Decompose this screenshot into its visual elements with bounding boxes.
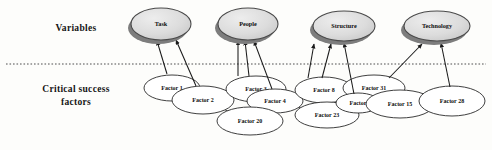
factor-node-factor-20[interactable]: Factor 20 [217,107,283,135]
factor-label-factor-4: Factor 4 [264,98,285,104]
factor-label-factor-2: Factor 2 [192,97,213,103]
variable-label-people: People [239,20,257,27]
variable-node-task[interactable]: Task [128,8,191,44]
factor-node-factor-28[interactable]: Factor 28 [419,86,485,116]
factor-label-factor-15: Factor 15 [388,101,412,107]
factor-label-factor-23: Factor 23 [315,112,339,118]
arrow-factor8a-structure [308,44,314,78]
variable-label-technology: Technology [422,22,453,29]
variable-nodes: TaskPeopleStructureTechnology [128,8,470,45]
row-label-critical-success-factors-line1: Critical success [42,84,109,94]
factor-label-factor-28: Factor 28 [440,98,464,104]
variable-label-task: Task [155,20,168,27]
factor-label-factor-20: Factor 20 [238,118,262,124]
factor-node-factor-2[interactable]: Factor 2 [172,86,234,114]
factor-label-factor-31: Factor 31 [362,85,386,91]
variable-node-structure[interactable]: Structure [310,11,375,45]
arrow-factor3b-people [245,41,249,76]
row-label-variables: Variables [56,23,97,33]
variable-label-structure: Structure [331,22,357,29]
arrow-factor31-technology [389,44,422,78]
arrow-factor1-task [157,41,167,74]
factor-label-factor-8: Factor 8 [313,87,334,93]
factor-label-factor-1: Factor 1 [161,85,182,91]
variable-node-technology[interactable]: Technology [401,11,470,45]
row-label-critical-success-factors-line2: factors [61,97,91,107]
variable-node-people[interactable]: People [215,8,278,44]
arrow-factor28-technology [441,43,450,87]
arrow-factor8b-structure [322,44,331,78]
diagram-svg: Variables Critical success factors Facto… [0,0,492,150]
factor-label-factor-x: Factor [350,100,367,106]
diagram-canvas: Variables Critical success factors Facto… [0,0,492,150]
